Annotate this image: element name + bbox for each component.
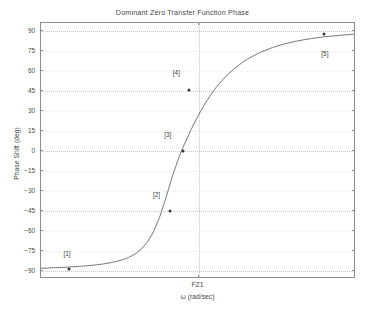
y-tick-label-2: 60: [28, 67, 38, 74]
y-tick-label-3: 45: [28, 87, 38, 94]
data-point-label-5: [5]: [321, 49, 328, 56]
data-point-5[interactable]: [322, 32, 325, 35]
x-axis-tick-labels: FZ1: [40, 281, 355, 293]
y-tick-label-5: 15: [28, 127, 38, 134]
x-axis-label: ω (rad/sec): [40, 293, 355, 300]
y-tick-label-4: 30: [28, 107, 38, 114]
y-tick-label-10: −60: [24, 227, 38, 234]
y-tick-label-7: −15: [24, 167, 38, 174]
data-point-label-4: [4]: [173, 69, 180, 76]
data-point-1[interactable]: [68, 268, 71, 271]
chart-title: Dominant Zero Transfer Function Phase: [0, 8, 365, 17]
plot-area: [1][2][3][4][5]: [40, 22, 355, 278]
data-point-2[interactable]: [169, 209, 172, 212]
y-tick-label-9: −45: [24, 207, 38, 214]
data-point-4[interactable]: [188, 89, 191, 92]
y-tick-label-12: −90: [24, 267, 38, 274]
y-tick-label-11: −75: [24, 247, 38, 254]
y-tick-label-8: −30: [24, 187, 38, 194]
data-point-label-3: [3]: [164, 131, 171, 138]
data-point-3[interactable]: [181, 150, 184, 153]
phase-curve: [41, 23, 354, 277]
y-tick-label-1: 75: [28, 47, 38, 54]
data-point-label-2: [2]: [153, 190, 160, 197]
y-tick-label-0: 90: [28, 27, 38, 34]
data-point-label-1: [1]: [63, 250, 70, 257]
y-tick-label-6: 0: [31, 147, 38, 154]
x-tick-label-0: FZ1: [191, 281, 203, 288]
y-axis-label: Phase Shift (deg): [13, 94, 20, 214]
figure-canvas: Dominant Zero Transfer Function Phase [1…: [0, 0, 365, 311]
